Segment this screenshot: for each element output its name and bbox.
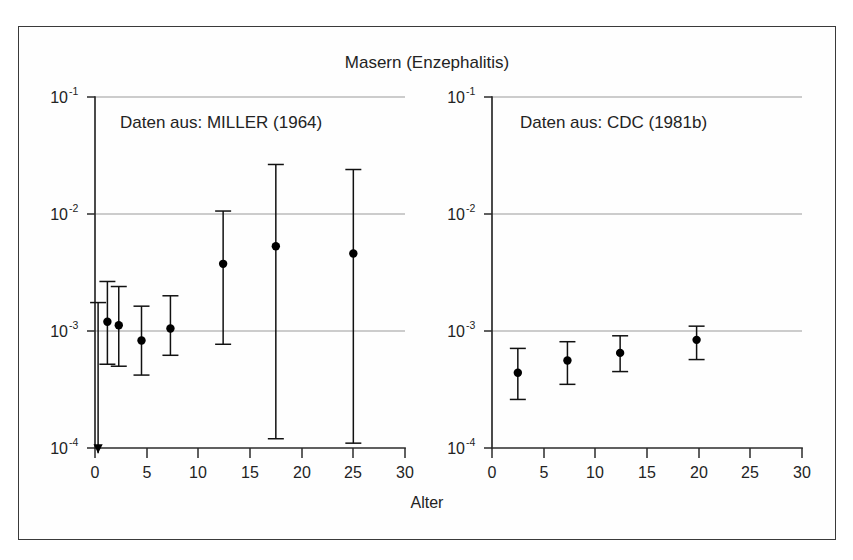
y-tick-right-exp-2: -2 xyxy=(466,202,475,214)
y-tick-label-right-2: 10 -2 xyxy=(447,202,475,223)
x-tick-label-left-5: 25 xyxy=(344,464,362,481)
y-tick-label-left-4: 10 -4 xyxy=(50,436,78,457)
y-tick-right-mant-4: 10 xyxy=(447,440,465,457)
data-point-0-7 xyxy=(345,170,361,444)
panel-left: 10 -1 10 -2 10 -3 10 -4 xyxy=(50,85,414,481)
y-tick-label-left-1: 10 -1 xyxy=(50,85,78,106)
figure-container: Masern (Enzephalitis) 10 -1 10 -2 xyxy=(0,0,853,560)
data-marker xyxy=(272,242,280,250)
x-tick-label-right-3: 15 xyxy=(638,464,656,481)
y-tick-label-left-3: 10 -3 xyxy=(50,319,78,340)
x-tick-label-left-1: 5 xyxy=(143,464,152,481)
data-series-miller xyxy=(90,164,361,453)
data-marker xyxy=(514,369,522,377)
data-point-1-1 xyxy=(559,342,575,385)
y-tick-label-left-2: 10 -2 xyxy=(50,202,78,223)
y-tick-label-right-1: 10 -1 xyxy=(447,85,475,106)
chart-canvas: Masern (Enzephalitis) 10 -1 10 -2 xyxy=(0,0,853,560)
y-tick-right-mant-2: 10 xyxy=(447,206,465,223)
y-tick-right-exp-4: -4 xyxy=(466,436,475,448)
data-marker xyxy=(349,249,357,257)
y-tick-right-exp-3: -3 xyxy=(466,319,475,331)
data-marker xyxy=(115,321,123,329)
y-tick-left-exp-2: -2 xyxy=(69,202,78,214)
x-tick-label-left-6: 30 xyxy=(396,464,414,481)
x-tick-label-right-6: 30 xyxy=(793,464,811,481)
y-tick-left-mant-1: 10 xyxy=(50,89,68,106)
data-point-0-2 xyxy=(111,287,127,367)
x-axis-title: Alter xyxy=(411,494,445,511)
data-marker xyxy=(563,356,571,364)
y-tick-label-right-4: 10 -4 xyxy=(447,436,475,457)
panel-right: 10 -1 10 -2 10 -3 10 -4 xyxy=(447,85,811,481)
y-tick-left-mant-3: 10 xyxy=(50,323,68,340)
data-marker xyxy=(219,260,227,268)
x-tick-label-right-0: 0 xyxy=(488,464,497,481)
y-tick-left-exp-3: -3 xyxy=(69,319,78,331)
panel-label-right: Daten aus: CDC (1981b) xyxy=(520,113,707,132)
data-marker xyxy=(166,324,174,332)
y-tick-left-exp-4: -4 xyxy=(69,436,78,448)
panel-label-left: Daten aus: MILLER (1964) xyxy=(120,113,322,132)
data-point-0-4 xyxy=(162,296,178,356)
x-tick-label-right-1: 5 xyxy=(540,464,549,481)
y-tick-left-mant-4: 10 xyxy=(50,440,68,457)
x-tick-label-right-2: 10 xyxy=(586,464,604,481)
y-tick-right-mant-3: 10 xyxy=(447,323,465,340)
x-tick-label-right-5: 25 xyxy=(741,464,759,481)
y-tick-left-mant-2: 10 xyxy=(50,206,68,223)
chart-title: Masern (Enzephalitis) xyxy=(345,53,509,72)
data-point-0-0 xyxy=(90,303,106,454)
data-marker xyxy=(103,318,111,326)
y-tick-left-exp-1: -1 xyxy=(69,85,78,97)
data-point-0-5 xyxy=(215,211,231,344)
x-tick-label-left-0: 0 xyxy=(91,464,100,481)
data-series-cdc xyxy=(510,326,705,399)
data-marker xyxy=(137,336,145,344)
data-point-1-0 xyxy=(510,348,526,399)
x-tick-label-left-4: 20 xyxy=(293,464,311,481)
x-tick-label-right-4: 20 xyxy=(690,464,708,481)
x-tick-label-left-3: 15 xyxy=(241,464,259,481)
data-point-0-1 xyxy=(99,281,115,364)
y-tick-right-exp-1: -1 xyxy=(466,85,475,97)
data-point-0-3 xyxy=(134,306,150,375)
data-marker xyxy=(692,336,700,344)
data-point-0-6 xyxy=(268,164,284,438)
x-tick-label-left-2: 10 xyxy=(189,464,207,481)
y-tick-right-mant-1: 10 xyxy=(447,89,465,106)
y-tick-label-right-3: 10 -3 xyxy=(447,319,475,340)
data-marker xyxy=(616,349,624,357)
data-point-1-2 xyxy=(612,336,628,372)
